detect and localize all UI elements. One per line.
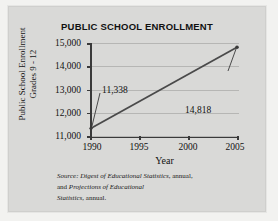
x-tick-label-1995: 1995	[130, 142, 149, 152]
x-tick-label-2000: 2000	[179, 142, 198, 152]
source-suffix-1: , annual,	[169, 172, 193, 180]
leader-line-11338	[92, 93, 100, 126]
source-suffix-3: , annual.	[82, 194, 106, 202]
source-title-1: Digest of Educational Statistics	[80, 172, 168, 180]
y-tick-label-13000: 13,000	[55, 85, 81, 95]
x-tick-label-2005: 2005	[226, 142, 245, 152]
figure-panel: PUBLIC SCHOOL ENROLLMENT Public School E…	[8, 6, 266, 212]
data-point-2005	[235, 45, 239, 49]
source-label: Source:	[57, 172, 79, 180]
y-axis-title-line-1: Public School Enrollment	[17, 28, 28, 121]
x-axis-title: Year	[90, 155, 239, 166]
source-title-3: Statistics	[57, 194, 82, 202]
y-axis-title-line-2: Grades 9 - 12	[28, 50, 39, 99]
source-note: Source: Digest of Educational Statistics…	[57, 171, 257, 204]
figure-page: PUBLIC SCHOOL ENROLLMENT Public School E…	[0, 0, 278, 221]
plot-area: 15,000 14,000 13,000 12,000 11,000	[90, 43, 239, 138]
y-tick-label-12000: 12,000	[55, 108, 81, 118]
chart-title: PUBLIC SCHOOL ENROLLMENT	[9, 21, 265, 32]
source-title-2: Projections of Educational	[69, 183, 144, 191]
source-note-line-1: Source: Digest of Educational Statistics…	[57, 171, 257, 182]
annotation-11338: 11,338	[102, 85, 128, 95]
y-tick-label-14000: 14,000	[55, 61, 81, 71]
source-conjunction: and	[57, 183, 69, 191]
x-tick-label-1990: 1990	[83, 142, 102, 152]
y-tick-label-15000: 15,000	[55, 38, 81, 48]
chart-figure: PUBLIC SCHOOL ENROLLMENT Public School E…	[9, 7, 265, 211]
source-note-line-3: Statistics, annual.	[57, 193, 257, 204]
y-axis-title: Public School Enrollment Grades 9 - 12	[13, 19, 43, 129]
source-note-line-2: and Projections of Educational	[57, 182, 257, 193]
annotation-14818: 14,818	[185, 105, 211, 115]
data-point-1990	[89, 127, 92, 130]
y-tick-label-11000: 11,000	[55, 131, 81, 141]
